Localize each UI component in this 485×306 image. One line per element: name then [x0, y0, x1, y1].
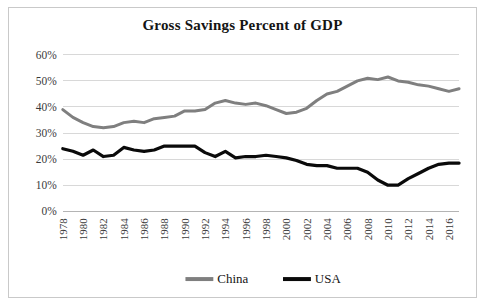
x-axis-tick-label: 2010 — [382, 218, 394, 240]
y-axis-tick-label: 30% — [36, 127, 57, 139]
x-axis-tick-label: 2000 — [280, 218, 292, 240]
x-axis-tick-label: 1978 — [57, 218, 69, 240]
x-axis-tick-label: 1980 — [77, 218, 89, 240]
x-axis-tick-label: 1992 — [199, 218, 211, 240]
y-axis-tick-label: 0% — [42, 205, 58, 217]
y-axis-tick-labels: 0%10%20%30%40%50%60% — [36, 49, 57, 217]
x-axis-tick-label: 2012 — [402, 218, 414, 240]
x-axis-tick-label: 2008 — [362, 218, 374, 240]
x-axis-tick-label: 1986 — [138, 218, 150, 240]
x-axis-tick-label: 2014 — [423, 218, 435, 240]
y-axis-tick-label: 20% — [36, 153, 57, 165]
x-axis-tick-labels: 1978198019821984198619881990199219941996… — [57, 218, 455, 240]
x-axis-tick-label: 2016 — [443, 218, 455, 240]
x-axis-tick-label: 2004 — [321, 218, 333, 240]
series-line-usa — [63, 146, 459, 185]
x-axis-tick-label: 2006 — [341, 218, 353, 240]
y-axis-tick-label: 60% — [36, 49, 57, 61]
x-axis-tick-label: 1994 — [219, 218, 231, 240]
chart-plot-frame: Gross Savings Percent of GDP 0%10%20%30%… — [8, 7, 477, 298]
series-line-china — [63, 77, 459, 128]
x-axis-tick-label: 1982 — [97, 218, 109, 240]
chart-figure: Gross Savings Percent of GDP 0%10%20%30%… — [0, 0, 485, 306]
chart-legend: ChinaUSA — [185, 271, 341, 286]
x-axis-tick-label: 1998 — [260, 218, 272, 240]
legend-label-usa: USA — [315, 271, 342, 286]
data-series-group — [63, 77, 459, 185]
x-axis-tick-label: 2002 — [301, 218, 313, 240]
x-axis-tick-label: 1984 — [118, 218, 130, 240]
gridlines-group — [63, 55, 459, 211]
legend-label-china: China — [217, 271, 248, 286]
chart-plot-area: 0%10%20%30%40%50%60% 1978198019821984198… — [9, 8, 476, 297]
y-axis-tick-label: 50% — [36, 75, 57, 87]
x-axis-tick-label: 1988 — [158, 218, 170, 240]
y-axis-tick-label: 40% — [36, 101, 57, 113]
x-axis-tick-label: 1990 — [179, 218, 191, 240]
y-axis-tick-label: 10% — [36, 179, 57, 191]
x-axis-tick-label: 1996 — [240, 218, 252, 240]
